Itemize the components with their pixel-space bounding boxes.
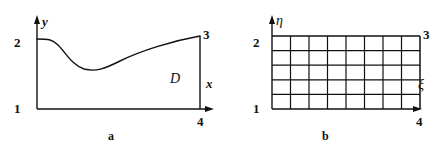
panel-b-mesh-vertical-lines xyxy=(291,36,402,109)
panel-a-y-axis xyxy=(34,15,40,109)
panel-a-x-axis-label: x xyxy=(206,76,213,92)
panel-b-label-3: 3 xyxy=(423,27,430,43)
panel-a-x-axis xyxy=(37,106,214,112)
panel-a-region-label: D xyxy=(170,71,180,87)
panel-b-xi-axis xyxy=(272,106,422,112)
panel-a-caption: a xyxy=(108,129,114,144)
panel-a-label-4: 4 xyxy=(197,114,204,130)
panel-b-label-2: 2 xyxy=(253,35,260,51)
panel-b-xi-axis-label: ξ xyxy=(418,77,424,93)
panel-b-label-1: 1 xyxy=(253,101,260,117)
panel-a-label-3: 3 xyxy=(203,27,210,43)
panel-b-caption: b xyxy=(322,129,329,144)
figure-container: 2 1 3 4 y x D a xyxy=(0,0,440,150)
panel-b-eta-axis-label: η xyxy=(276,13,283,29)
panel-a-y-axis-label: y xyxy=(42,14,48,30)
panel-a-label-2: 2 xyxy=(14,35,21,51)
panel-b-label-4: 4 xyxy=(416,114,423,130)
panel-a-label-1: 1 xyxy=(14,101,21,117)
panel-a-drawing xyxy=(0,5,230,130)
panel-a-curved-boundary xyxy=(37,36,200,70)
